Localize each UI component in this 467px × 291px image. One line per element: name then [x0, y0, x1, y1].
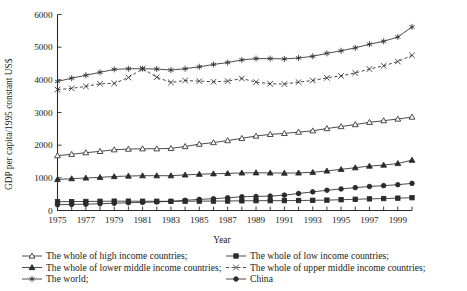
data-point-filled-circle [381, 183, 386, 188]
y-tick-label: 3000 [34, 108, 53, 118]
data-point-filled-circle [325, 188, 330, 193]
legend-item-4[interactable]: The world; [22, 273, 88, 284]
x-tick-label: 1975 [48, 215, 67, 225]
x-tick-label: 1989 [247, 215, 266, 225]
data-point-filled-circle [396, 182, 401, 187]
chart-axes: 0100020003000400050006000 19751977197919… [34, 10, 412, 225]
chart-canvas: 0100020003000400050006000 19751977197919… [0, 0, 467, 291]
x-axis-ticks [58, 207, 413, 211]
data-point-filled-circle [268, 194, 273, 199]
data-point-filled-circle [410, 181, 415, 186]
data-point-filled-circle [339, 187, 344, 192]
data-point-filled-circle [234, 277, 239, 282]
data-point-filled-circle [140, 200, 145, 205]
data-point-cross-x [168, 80, 174, 86]
data-point-filled-circle [55, 202, 60, 207]
series-2 [55, 157, 415, 181]
data-point-asterisk [395, 34, 400, 40]
data-point-filled-square [325, 198, 329, 202]
x-axis-title: Year [213, 235, 231, 245]
y-tick-label: 1000 [34, 173, 53, 183]
data-point-filled-square [311, 198, 315, 202]
x-tick-label: 1995 [332, 215, 351, 225]
data-point-filled-circle [154, 200, 159, 205]
data-point-filled-circle [282, 193, 287, 198]
data-point-asterisk [409, 24, 414, 30]
data-point-filled-square [381, 196, 385, 200]
legend-label: China [250, 273, 274, 284]
y-tick-label: 2000 [34, 140, 53, 150]
data-point-cross-x [381, 63, 387, 69]
y-axis-tick-labels: 0100020003000400050006000 [34, 10, 53, 216]
y-axis-title: GDP per capita/1995 constant US$ [4, 58, 14, 190]
data-point-cross-x [154, 74, 160, 80]
data-point-cross-x [111, 81, 117, 87]
legend-label: The whole of lower middle income countri… [46, 262, 221, 273]
series-line [58, 160, 413, 179]
x-axis-tick-labels: 1975197719791981198319851987198919911993… [48, 215, 407, 225]
data-point-filled-circle [69, 202, 74, 207]
data-point-cross-x [395, 59, 401, 65]
x-tick-label: 1979 [105, 215, 124, 225]
data-point-filled-square [367, 197, 371, 201]
series-line [58, 117, 413, 156]
data-point-filled-square [296, 198, 300, 202]
data-point-cross-x [409, 53, 415, 59]
x-tick-label: 1997 [360, 215, 379, 225]
data-point-filled-circle [112, 201, 117, 206]
legend-item-3[interactable]: The whole of upper middle income countri… [226, 262, 425, 273]
x-tick-label: 1985 [190, 215, 209, 225]
data-point-filled-circle [225, 195, 230, 200]
legend-item-0[interactable]: The whole of high income countries; [22, 250, 187, 261]
series-line [58, 198, 413, 202]
data-point-cross-x [239, 76, 245, 82]
data-point-cross-x [338, 73, 344, 79]
y-tick-label: 5000 [34, 42, 53, 52]
gdp-per-capita-line-chart: 0100020003000400050006000 19751977197919… [0, 0, 467, 291]
data-point-filled-square [339, 198, 343, 202]
legend-item-2[interactable]: The whole of lower middle income countri… [22, 262, 221, 273]
data-point-filled-circle [367, 184, 372, 189]
data-point-filled-square [268, 199, 272, 203]
legend-item-1[interactable]: The whole of low income countries; [226, 250, 389, 261]
data-point-filled-circle [98, 201, 103, 206]
series-5 [55, 181, 414, 207]
data-point-filled-circle [353, 185, 358, 190]
data-point-filled-circle [211, 196, 216, 201]
series-1 [55, 195, 414, 203]
x-tick-label: 1983 [162, 215, 181, 225]
data-point-filled-circle [126, 200, 131, 205]
data-point-filled-circle [84, 202, 89, 207]
x-tick-label: 1993 [304, 215, 323, 225]
y-tick-label: 4000 [34, 75, 53, 85]
series-line [58, 27, 413, 82]
data-point-filled-circle [310, 190, 315, 195]
data-point-filled-square [396, 196, 400, 200]
data-point-filled-circle [197, 197, 202, 202]
data-point-filled-circle [240, 194, 245, 199]
data-point-filled-circle [254, 194, 259, 199]
series-line [58, 55, 413, 89]
data-point-cross-x [367, 66, 373, 72]
y-tick-label: 6000 [34, 10, 53, 20]
chart-series-layer [55, 24, 415, 207]
x-tick-label: 1991 [275, 215, 294, 225]
series-0 [55, 114, 415, 158]
data-point-open-triangle [409, 114, 415, 119]
legend-label: The whole of low income countries; [250, 250, 389, 261]
data-point-filled-triangle [409, 157, 415, 162]
x-tick-label: 1977 [77, 215, 96, 225]
series-4 [55, 24, 415, 85]
x-tick-label: 1999 [389, 215, 408, 225]
data-point-filled-square [282, 198, 286, 202]
data-point-filled-circle [169, 199, 174, 204]
legend-item-5[interactable]: China [226, 273, 274, 284]
data-point-cross-x [126, 75, 132, 81]
x-tick-label: 1981 [133, 215, 152, 225]
data-point-filled-square [353, 197, 357, 201]
x-tick-label: 1987 [218, 215, 237, 225]
series-3 [55, 53, 415, 93]
legend-label: The world; [46, 273, 88, 284]
data-point-filled-circle [183, 198, 188, 203]
legend-label: The whole of upper middle income countri… [250, 262, 425, 273]
